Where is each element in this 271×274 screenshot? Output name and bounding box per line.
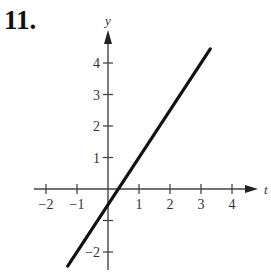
y-axis-label: y [103, 13, 111, 28]
x-axis-arrow-icon [245, 185, 258, 193]
x-tick-label: 2 [167, 197, 174, 212]
y-tick-label: −2 [85, 245, 100, 260]
x-tick-label: 1 [136, 197, 143, 212]
x-tick-label: −1 [70, 197, 85, 212]
y-axis-arrow-icon [104, 30, 112, 44]
data-line [68, 49, 211, 266]
x-tick-label: −2 [39, 197, 54, 212]
y-tick-label: 2 [93, 119, 100, 134]
x-axis-label: t [264, 182, 268, 197]
y-tick-label: 4 [93, 56, 100, 71]
y-tick-label: 1 [93, 151, 100, 166]
x-tick-label: 3 [198, 197, 205, 212]
chart: ty−2−11234−21234 [0, 0, 271, 274]
x-tick-label: 4 [229, 197, 236, 212]
y-tick-label: 3 [93, 88, 100, 103]
